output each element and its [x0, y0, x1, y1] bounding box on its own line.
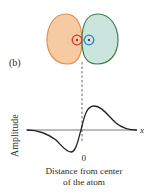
caption-line-1: Distance from center	[45, 166, 122, 176]
p-orbital-diagram: (b) x 0 Amplitude Distance from center o…	[0, 0, 153, 193]
left-ring-center	[76, 39, 78, 41]
panel-label: (b)	[9, 57, 21, 69]
y-axis-label: Amplitude	[9, 114, 20, 157]
right-lobe	[82, 14, 118, 64]
right-ring-center	[88, 39, 90, 41]
origin-label: 0	[82, 153, 87, 163]
caption-line-2: of the atom	[63, 177, 105, 187]
x-axis-label: x	[139, 125, 144, 135]
